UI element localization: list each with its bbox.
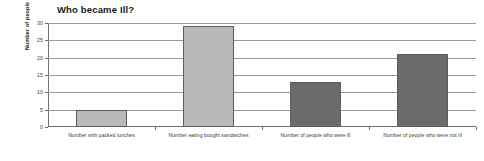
gridline	[48, 23, 476, 24]
x-axis-tick-mark	[155, 127, 156, 130]
x-axis-category-label: Number eating bought sandwiches	[155, 132, 262, 139]
x-axis-category-label: Number with packed lunches	[48, 132, 155, 139]
y-axis-tick-label: 5	[40, 107, 43, 113]
bar	[76, 110, 127, 127]
gridline	[48, 40, 476, 41]
y-axis-tick-label: 15	[37, 72, 43, 78]
y-axis-tick-mark	[45, 110, 48, 111]
y-axis-tick-mark	[45, 75, 48, 76]
y-axis-tick-mark	[45, 92, 48, 93]
y-axis-tick-label: 20	[37, 55, 43, 61]
bar	[397, 54, 448, 127]
y-axis-tick-label: 0	[40, 124, 43, 130]
y-axis-tick-label: 10	[37, 89, 43, 95]
y-axis-tick-mark	[45, 40, 48, 41]
y-axis-tick-mark	[45, 127, 48, 128]
y-axis-tick-mark	[45, 23, 48, 24]
plot-area: 051015202530	[48, 23, 476, 127]
bar	[183, 26, 234, 127]
y-axis-title: Number of people	[24, 2, 30, 50]
y-axis-tick-label: 25	[37, 37, 43, 43]
x-axis-tick-mark	[262, 127, 263, 130]
bar-chart-figure: Who became Ill? Number of people 0510152…	[0, 0, 484, 161]
y-axis-tick-mark	[45, 58, 48, 59]
x-axis-tick-mark	[476, 127, 477, 130]
chart-title: Who became Ill?	[57, 4, 134, 15]
x-axis-category-label: Number of people who were not ill	[369, 132, 476, 139]
x-axis-tick-mark	[369, 127, 370, 130]
x-axis-category-label: Number of people who were ill	[262, 132, 369, 139]
bar	[290, 82, 341, 127]
y-axis-tick-label: 30	[37, 20, 43, 26]
